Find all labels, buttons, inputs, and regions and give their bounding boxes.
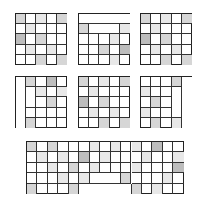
grid-cell xyxy=(26,108,36,118)
grid-cell xyxy=(57,97,67,107)
grid-cell xyxy=(47,87,57,97)
grid-cell xyxy=(152,173,162,183)
grid-cell xyxy=(36,87,46,97)
grid-cell xyxy=(79,173,89,183)
grid-cell xyxy=(161,87,171,97)
grid-cell xyxy=(120,97,130,107)
grid-cell xyxy=(110,55,120,65)
grid-cell xyxy=(26,77,36,87)
grid-cell xyxy=(111,163,121,173)
grid-cell xyxy=(163,142,173,152)
grid-cell xyxy=(151,118,161,128)
grid-cell xyxy=(69,184,79,194)
grid-cell xyxy=(120,34,130,44)
grid-cell xyxy=(161,14,171,24)
grid-cell xyxy=(173,184,183,194)
grid-cell xyxy=(89,108,99,118)
grid-cell xyxy=(57,87,67,97)
grid-cell xyxy=(182,34,192,44)
grid-cell xyxy=(120,87,130,97)
grid-cell xyxy=(99,87,109,97)
grid-cell xyxy=(110,108,120,118)
grid-cell xyxy=(120,24,130,34)
grid-cell xyxy=(16,45,26,55)
grid-cell xyxy=(132,184,142,194)
grid-cell xyxy=(58,142,68,152)
grid-cell xyxy=(16,55,26,65)
grid-cell xyxy=(47,45,57,55)
grid-cell xyxy=(36,55,46,65)
grid-cell xyxy=(161,108,171,118)
grid-cell xyxy=(57,108,67,118)
grid-cell xyxy=(172,24,182,34)
grid-cell xyxy=(57,45,67,55)
grid-cell xyxy=(99,34,109,44)
merged-cell xyxy=(172,87,182,118)
grid-cell xyxy=(161,24,171,34)
grid-cell xyxy=(26,45,36,55)
merged-cell xyxy=(16,77,26,128)
grid-cell xyxy=(79,87,89,97)
grid-cell xyxy=(121,142,131,152)
grid-cell xyxy=(173,163,183,173)
grid-cell xyxy=(182,45,192,55)
grid-cell xyxy=(161,45,171,55)
grid-cell xyxy=(57,14,67,24)
grid-cell xyxy=(110,97,120,107)
grid-cell xyxy=(100,152,110,162)
grid-cell xyxy=(141,108,151,118)
grid-cell xyxy=(47,108,57,118)
grid-cell xyxy=(163,152,173,162)
grid-cell xyxy=(182,24,192,34)
grid-cell xyxy=(151,87,161,97)
grid-cell xyxy=(79,24,89,34)
grid-cell xyxy=(152,142,162,152)
grid-cell xyxy=(161,97,171,107)
grid-cell xyxy=(161,77,171,87)
grid-cell xyxy=(79,77,89,87)
grid-7 xyxy=(26,141,184,194)
grid-cell xyxy=(36,14,46,24)
grid-cell xyxy=(152,152,162,162)
grid-cell xyxy=(151,34,161,44)
grid-cell xyxy=(89,77,99,87)
grid-cell xyxy=(37,173,47,183)
grid-1 xyxy=(15,13,67,65)
grid-cell xyxy=(163,163,173,173)
grid-cell xyxy=(26,118,36,128)
grid-cell xyxy=(99,77,109,87)
grid-cell xyxy=(36,77,46,87)
grid-cell xyxy=(58,163,68,173)
grid-cell xyxy=(69,163,79,173)
grid-cell xyxy=(110,77,120,87)
grid-cell xyxy=(79,142,89,152)
grid-cell xyxy=(79,45,89,55)
grid-cell xyxy=(172,55,182,65)
grid-cell xyxy=(36,45,46,55)
grid-4 xyxy=(15,76,67,128)
grid-cell xyxy=(79,118,89,128)
grid-cell xyxy=(90,163,100,173)
grid-cell xyxy=(99,97,109,107)
grid-cell xyxy=(89,55,99,65)
grid-cell xyxy=(141,77,151,87)
grid-cell xyxy=(27,163,37,173)
grid-cell xyxy=(100,163,110,173)
grid-cell xyxy=(141,34,151,44)
grid-cell xyxy=(36,108,46,118)
grid-cell xyxy=(58,184,68,194)
grid-cell xyxy=(172,14,182,24)
grid-cell xyxy=(58,152,68,162)
grid-cell xyxy=(48,173,58,183)
grid-cell xyxy=(172,77,182,87)
grid-cell xyxy=(161,34,171,44)
grid-cell xyxy=(141,87,151,97)
grid-cell xyxy=(172,118,182,128)
grid-cell xyxy=(173,142,183,152)
grid-cell xyxy=(99,118,109,128)
grid-cell xyxy=(182,14,192,24)
grid-cell xyxy=(172,45,182,55)
grid-cell xyxy=(48,142,58,152)
grid-cell xyxy=(36,34,46,44)
grid-cell xyxy=(57,118,67,128)
